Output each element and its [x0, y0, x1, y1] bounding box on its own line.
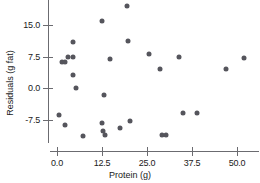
y-axis-tick [43, 88, 53, 89]
data-point [242, 55, 247, 60]
data-point [126, 38, 131, 43]
data-point [108, 57, 113, 62]
data-point [101, 93, 106, 98]
data-point [147, 52, 152, 57]
data-point [181, 110, 186, 115]
x-axis-tick-label: 50.0 [229, 158, 246, 168]
data-point [100, 121, 105, 126]
x-axis-line [50, 151, 259, 152]
y-axis-tick [43, 25, 53, 26]
x-axis-tick [57, 147, 58, 156]
data-point [124, 4, 129, 9]
data-point [177, 54, 182, 59]
data-point [80, 134, 85, 139]
y-axis-title: Residuals (g fat) [5, 33, 15, 133]
data-point [100, 18, 105, 23]
data-point [74, 86, 79, 91]
y-axis-line [48, 0, 49, 143]
x-axis-tick-label: 0.0 [51, 158, 63, 168]
y-axis-tick-label: 15.0 [23, 20, 40, 30]
data-point [70, 39, 75, 44]
x-axis-tick [237, 147, 238, 156]
data-point [128, 119, 133, 124]
data-point [195, 110, 200, 115]
scatter-plot-figure: -7.50.07.515.0 0.012.525.037.550.0 Resid… [0, 0, 260, 183]
data-point [70, 72, 75, 77]
x-axis-tick [147, 147, 148, 156]
data-point [224, 67, 229, 72]
data-point [62, 122, 67, 127]
x-axis-title: Protein (g) [0, 170, 260, 180]
x-axis-tick [192, 147, 193, 156]
x-axis-tick-label: 25.0 [139, 158, 156, 168]
data-point [164, 133, 169, 138]
x-axis-tick [102, 147, 103, 156]
data-point [102, 133, 107, 138]
x-axis-tick-label: 37.5 [184, 158, 201, 168]
data-point [62, 59, 67, 64]
data-point [57, 113, 62, 118]
y-axis-tick-label: 7.5 [28, 52, 40, 62]
y-axis-tick [43, 120, 53, 121]
data-point [118, 126, 123, 131]
data-point [157, 67, 162, 72]
x-axis-tick-label: 12.5 [94, 158, 111, 168]
y-axis-tick [43, 57, 53, 58]
y-axis-tick-label: 0.0 [28, 83, 40, 93]
y-axis-tick-label: -7.5 [25, 115, 40, 125]
data-point [70, 54, 75, 59]
